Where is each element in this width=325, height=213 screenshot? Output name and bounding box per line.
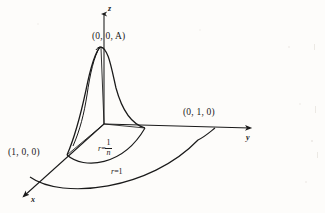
outer-disk-arc	[30, 128, 215, 189]
scan-artifacts	[37, 23, 318, 183]
inner-radius-fraction: 1n	[105, 139, 111, 157]
y-intercept-point-label: (0, 1, 0)	[183, 108, 215, 118]
axes-group	[24, 14, 250, 196]
bump-left-profile	[67, 47, 100, 155]
peak-point-label: (0, 0, A)	[92, 32, 125, 42]
y-axis-label: y	[246, 134, 250, 142]
outer-disk-group	[30, 128, 215, 189]
bump-right-profile	[100, 47, 145, 128]
outer-radius-label: r=1	[111, 168, 123, 176]
inner-radius-numerator: 1	[105, 139, 111, 147]
figure-container: (0, 0, A) (0, 1, 0) (1, 0, 0) z y x r=1n…	[0, 0, 325, 213]
z-axis-label: z	[108, 5, 111, 13]
inner-radius-label: r=1n	[98, 140, 112, 158]
outer-radius-value: 1	[118, 167, 122, 176]
inner-radius-denominator: n	[105, 149, 111, 157]
x-intercept-point-label: (1, 0, 0)	[8, 148, 40, 158]
x-axis-label: x	[31, 196, 35, 204]
x-axis	[24, 124, 104, 196]
diagram-svg	[0, 0, 325, 213]
